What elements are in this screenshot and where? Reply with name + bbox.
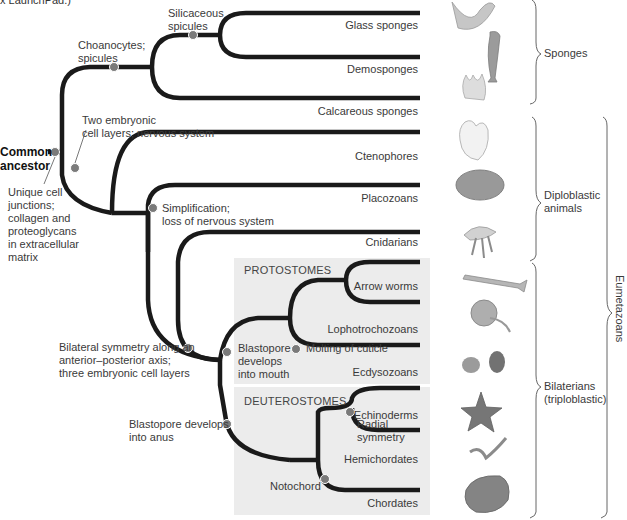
taxon-arrow-worms: Arrow worms (354, 280, 418, 293)
label-choanocytes: Choanocytes; spicules (78, 39, 145, 65)
common-ancestor-label: Common ancestor (0, 145, 46, 173)
label-simplification: Simplification; loss of nervous system (162, 202, 274, 228)
simplification-node (149, 204, 158, 213)
taxon-calcareous-sponges: Calcareous sponges (318, 105, 418, 118)
group-eumetazoans: Eumetazoans (614, 275, 626, 342)
notochord-node (321, 475, 330, 484)
label-silicaceous: Silicaceous spicules (168, 7, 224, 33)
taxon-chordates: Chordates (367, 497, 418, 510)
taxon-cnidarians: Cnidarians (365, 236, 418, 249)
label-bilateral: Bilateral symmetry along an anterior–pos… (59, 341, 195, 380)
taxon-glass-sponges: Glass sponges (345, 19, 418, 32)
label-notochord: Notochord (270, 480, 321, 493)
taxon-demosponges: Demosponges (347, 63, 418, 76)
taxon-ecdysozoans: Ecdysozoans (353, 366, 418, 379)
protostomes-heading: PROTOSTOMES (244, 264, 331, 277)
deuterostomes-heading: DEUTEROSTOMES (244, 395, 347, 408)
group-sponges: Sponges (544, 47, 587, 60)
organism-illustrations (452, 2, 527, 513)
taxon-placozoans: Placozoans (361, 192, 418, 205)
group-bilaterians: Bilaterians (triploblastic) (544, 380, 606, 406)
two-layers-node (71, 164, 80, 173)
molting-node (292, 345, 301, 354)
tree-branches (0, 0, 627, 520)
phylogeny-diagram: x LaunchPad.) (0, 0, 627, 520)
label-unique-junctions: Unique cell junctions; collagen and prot… (8, 186, 79, 264)
taxon-ctenophores: Ctenophores (355, 150, 418, 163)
label-two-layers: Two embryonic cell layers; nervous syste… (82, 114, 214, 140)
group-diploblastic: Diploblastic animals (544, 189, 600, 215)
taxon-lophotrochozoans: Lophotrochozoans (327, 323, 418, 336)
label-blastopore-anus: Blastopore develops into anus (129, 418, 229, 444)
label-blastopore-mouth: Blastopore develops into mouth (238, 342, 291, 381)
label-molting: Molting of cuticle (306, 342, 388, 355)
taxon-echinoderms: Echinoderms (354, 409, 418, 422)
blastopore-mouth-node (223, 348, 232, 357)
taxon-hemichordates: Hemichordates (344, 453, 418, 466)
